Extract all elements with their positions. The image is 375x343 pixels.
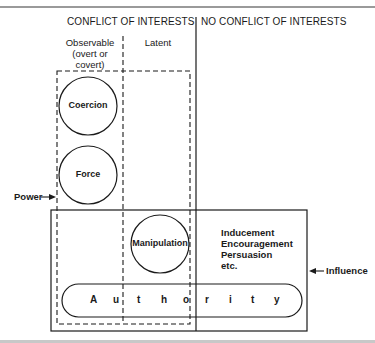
observable-line1: Observable [58,37,122,48]
influence-arrowhead-icon [309,268,316,274]
authority-letter: o [183,294,189,305]
authority-letter: y [274,294,280,305]
coercion-label: Coercion [59,100,117,110]
authority-letter: t [251,294,254,305]
influence-item-etc: etc. [221,260,293,271]
authority-letter: i [229,294,232,305]
latent-label: Latent [128,37,188,48]
authority-letter: t [137,294,140,305]
observable-line2: (overt or [58,48,122,59]
authority-letter: h [161,294,167,305]
influence-list: Inducement Encouragement Persuasion etc. [221,227,293,271]
influence-item-inducement: Inducement [221,227,293,238]
influence-item-persuasion: Persuasion [221,249,293,260]
authority-letter: u [113,294,119,305]
diagram-lines [0,0,375,343]
observable-label: Observable (overt or covert) [58,37,122,70]
force-label: Force [59,169,117,179]
conflict-header: CONFLICT OF INTERESTS [67,16,194,27]
power-arrowhead-icon [49,194,56,200]
influence-item-encouragement: Encouragement [221,238,293,249]
no-conflict-header: NO CONFLICT OF INTERESTS [201,16,347,27]
observable-line3: covert) [58,59,122,70]
authority-pill [62,284,302,317]
influence-label: Influence [326,265,368,276]
authority-letter: r [205,294,209,305]
manipulation-label: Manipulation [129,238,191,248]
authority-letter: A [90,294,97,305]
power-label: Power [14,191,43,202]
